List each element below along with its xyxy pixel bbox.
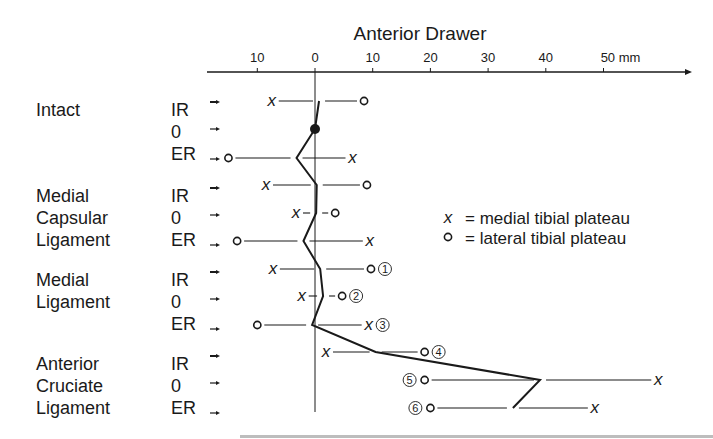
arrow-icon (216, 127, 220, 131)
annotation-number-text: 6 (412, 402, 418, 414)
medial-marker: x (347, 148, 357, 167)
x-tick-label: 50 mm (601, 50, 641, 65)
lateral-marker (332, 209, 339, 216)
legend: x= medial tibial plateau= lateral tibial… (443, 208, 630, 248)
rotation-label: ER (171, 398, 196, 418)
x-tick-label: 10 (250, 50, 264, 65)
medial-marker: x (653, 370, 663, 389)
medial-marker: x (291, 203, 301, 222)
lateral-marker (421, 376, 428, 383)
arrow-icon (216, 213, 220, 217)
rotation-label: 0 (171, 122, 181, 142)
lateral-marker (339, 292, 346, 299)
annotation-number-text: 3 (380, 319, 386, 331)
annotation-number-text: 5 (407, 374, 413, 386)
x-tick-label: 40 (539, 50, 553, 65)
arrow-icon (216, 243, 220, 247)
group-label: Capsular (36, 208, 108, 228)
group-label: Anterior (36, 354, 99, 374)
x-tick-label: 10 (365, 50, 379, 65)
legend-label: = lateral tibial plateau (465, 229, 626, 248)
medial-marker: x (296, 286, 306, 305)
group-label: Ligament (36, 230, 110, 250)
group-label: Intact (36, 100, 80, 120)
rotation-label: 0 (171, 376, 181, 396)
rotation-label: IR (171, 354, 189, 374)
legend-label: = medial tibial plateau (465, 209, 630, 228)
row-labels: IntactIR0ERMedialCapsularLigamentIR0ERMe… (36, 100, 220, 418)
group-label: Ligament (36, 292, 110, 312)
page-edge (240, 435, 713, 438)
arrow-icon (216, 381, 220, 385)
group-label: Medial (36, 270, 89, 290)
medial-marker: x (590, 398, 600, 417)
arrow-icon (216, 297, 220, 301)
rotation-label: 0 (171, 208, 181, 228)
medial-marker: x (365, 231, 375, 250)
lateral-marker (254, 321, 261, 328)
lateral-marker (225, 154, 232, 161)
mean-curve (297, 101, 540, 408)
medial-marker: x (266, 91, 276, 110)
lateral-marker (427, 404, 434, 411)
arrow-icon (216, 411, 220, 415)
x-tick-label: 0 (311, 50, 318, 65)
lateral-marker (367, 265, 374, 272)
legend-o-icon (444, 233, 451, 240)
rotation-label: IR (171, 186, 189, 206)
lateral-marker (234, 237, 241, 244)
annotation-number-text: 4 (436, 346, 442, 358)
medial-marker: x (363, 315, 373, 334)
lateral-marker (360, 97, 367, 104)
medial-marker: x (268, 259, 278, 278)
x-tick-label: 20 (423, 50, 437, 65)
rotation-label: ER (171, 230, 196, 250)
arrow-icon (216, 327, 220, 331)
group-label: Cruciate (36, 376, 103, 396)
rotation-label: IR (171, 100, 189, 120)
group-label: Ligament (36, 398, 110, 418)
rotation-label: 0 (171, 292, 181, 312)
arrow-icon (216, 186, 220, 190)
arrow-icon (216, 354, 220, 358)
medial-marker: x (261, 175, 271, 194)
medial-marker: x (321, 342, 331, 361)
legend-x-icon: x (443, 208, 453, 227)
rotation-label: ER (171, 144, 196, 164)
axis-arrow-icon (685, 69, 692, 75)
annotation-number-text: 2 (353, 290, 359, 302)
arrow-icon (216, 270, 220, 274)
x-tick-label: 30 (481, 50, 495, 65)
anterior-drawer-chart: Anterior Drawer 1001020304050 mm IntactI… (0, 0, 713, 439)
rotation-label: ER (171, 314, 196, 334)
lateral-marker (363, 181, 370, 188)
data-series: xxxxxx1x2x3x4x5x6 (225, 91, 663, 417)
annotation-number-text: 1 (382, 263, 388, 275)
rotation-label: IR (171, 270, 189, 290)
lateral-marker (421, 348, 428, 355)
group-label: Medial (36, 186, 89, 206)
arrow-icon (216, 100, 220, 104)
arrow-icon (216, 157, 220, 161)
chart-title: Anterior Drawer (353, 23, 487, 44)
